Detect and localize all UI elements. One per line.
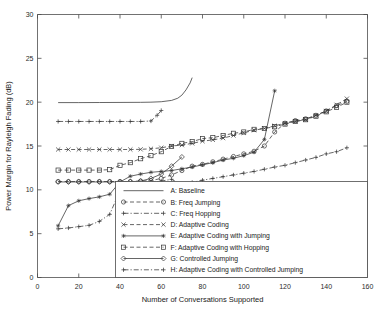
y-tick-label-20: 20 xyxy=(26,99,34,106)
x-tick-label-100: 100 xyxy=(238,283,250,290)
y-tick-label-0: 0 xyxy=(30,274,34,281)
y-tick-label-25: 25 xyxy=(26,55,34,62)
x-axis-title: Number of Conversations Supported xyxy=(142,295,264,304)
legend-label-F: F: Adaptive Coding with Hopping xyxy=(171,244,270,252)
y-tick-label-5: 5 xyxy=(30,230,34,237)
legend-box xyxy=(116,182,368,278)
y-tick-label-15: 15 xyxy=(26,143,34,150)
y-tick-label-30: 30 xyxy=(26,11,34,18)
legend-label-B: B: Freq Jumping xyxy=(171,199,221,207)
x-tick-label-80: 80 xyxy=(199,283,207,290)
legend-label-E: E: Adaptive Coding with Jumping xyxy=(171,232,271,240)
legend-label-G: G: Controlled Jumping xyxy=(171,255,239,263)
x-tick-label-120: 120 xyxy=(279,283,291,290)
x-tick-label-140: 140 xyxy=(320,283,332,290)
y-tick-label-10: 10 xyxy=(26,186,34,193)
x-tick-label-40: 40 xyxy=(116,283,124,290)
x-tick-label-160: 160 xyxy=(362,283,374,290)
x-tick-label-0: 0 xyxy=(36,283,40,290)
legend-label-A: A: Baseline xyxy=(171,187,206,194)
chart-figure: 020406080100120140160051015202530Number … xyxy=(0,0,380,314)
legend-label-C: C: Freq Hopping xyxy=(171,210,221,218)
legend-label-H: H: Adaptive Coding with Controlled Jumpi… xyxy=(171,266,304,274)
chart-canvas: 020406080100120140160051015202530Number … xyxy=(0,0,380,314)
legend-label-D: D: Adaptive Coding xyxy=(171,221,229,229)
y-axis-title: Power Margin for Rayleigh Fading (dB) xyxy=(4,81,13,211)
x-tick-label-60: 60 xyxy=(157,283,165,290)
x-tick-label-20: 20 xyxy=(75,283,83,290)
